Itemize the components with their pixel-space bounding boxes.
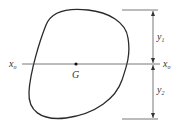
centroid-point — [74, 62, 77, 65]
centroid-label: G — [72, 69, 79, 80]
axis-left-label: xo — [8, 58, 16, 70]
arrow-up-icon — [151, 11, 155, 16]
dim-lower-label: y2 — [156, 84, 164, 96]
axis-right-label: xo — [162, 58, 170, 70]
dim-upper-label: y1 — [156, 31, 164, 43]
arrow-up-icon — [151, 65, 155, 70]
arrow-down-icon — [151, 113, 155, 118]
arrow-down-icon — [151, 58, 155, 63]
section-diagram: xo xo G y1 y2 — [0, 0, 176, 133]
